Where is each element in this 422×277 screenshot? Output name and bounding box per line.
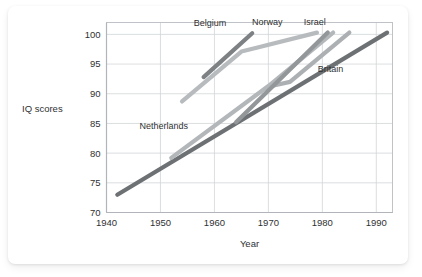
x-tick-label: 1990 xyxy=(366,217,387,228)
series-line-norway xyxy=(182,33,317,102)
x-tick-labels: 194019501960197019801990 xyxy=(96,217,387,228)
x-tick-label: 1980 xyxy=(312,217,333,228)
line-chart: 194019501960197019801990 707580859095100… xyxy=(0,0,422,277)
x-tick-label: 1950 xyxy=(150,217,171,228)
series-label-britain: Britain xyxy=(318,64,344,74)
series-label-belgium: Belgium xyxy=(194,18,227,28)
x-tick-label: 1960 xyxy=(204,217,225,228)
series-label-israel: Israel xyxy=(304,17,326,27)
y-tick-label: 95 xyxy=(90,58,101,69)
y-axis-label: IQ scores xyxy=(22,103,63,114)
y-tick-label: 85 xyxy=(90,118,101,129)
series-line-belgium xyxy=(204,33,253,77)
y-tick-label: 70 xyxy=(90,207,101,218)
series-line-britain xyxy=(117,33,387,195)
y-tick-label: 80 xyxy=(90,148,101,159)
x-axis-label: Year xyxy=(240,238,259,249)
series-label-norway: Norway xyxy=(252,17,283,27)
y-tick-label: 75 xyxy=(90,177,101,188)
series-label-netherlands: Netherlands xyxy=(139,121,188,131)
series-lines xyxy=(117,33,387,195)
y-tick-label: 90 xyxy=(90,88,101,99)
x-tick-label: 1940 xyxy=(96,217,117,228)
y-tick-labels: 707580859095100 xyxy=(85,29,101,218)
figure-root: 194019501960197019801990 707580859095100… xyxy=(0,0,422,277)
x-tick-label: 1970 xyxy=(258,217,279,228)
y-tick-label: 100 xyxy=(85,29,101,40)
